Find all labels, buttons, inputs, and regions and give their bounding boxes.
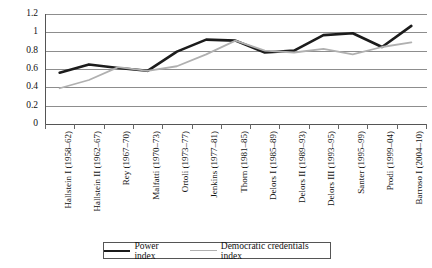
y-axis-tick-label: 0 bbox=[0, 119, 38, 129]
x-axis-tick bbox=[162, 124, 163, 129]
line-chart: 00.20.40.60.811.2 Hallstein I (1958–62)H… bbox=[0, 0, 432, 268]
x-axis-category-label: Ortoli (1973–77) bbox=[181, 131, 190, 241]
x-axis-tick bbox=[426, 124, 427, 129]
x-axis-tick bbox=[397, 124, 398, 129]
x-axis-tick bbox=[104, 124, 105, 129]
series-line-democratic-credentials-index bbox=[60, 41, 412, 89]
x-axis-category-label: Barroso I (2004–10) bbox=[415, 131, 424, 241]
x-axis-category-label: Delors III (1993–95) bbox=[327, 131, 336, 241]
x-axis-category-label: Santer (1995–99) bbox=[357, 131, 366, 241]
x-axis-tick bbox=[74, 124, 75, 129]
x-axis-category-label: Malfatti (1970–73) bbox=[152, 131, 161, 241]
x-axis-tick bbox=[192, 124, 193, 129]
series-line-power-index bbox=[60, 26, 412, 73]
legend-label-power-index: Power index bbox=[134, 241, 181, 261]
x-axis-tick bbox=[367, 124, 368, 129]
x-axis-tick bbox=[309, 124, 310, 129]
x-axis-category-label: Prodi (1999–04) bbox=[386, 131, 395, 241]
legend-label-democratic-credentials-index: Democratic credentials index bbox=[221, 241, 330, 261]
y-axis-tick-label: 0.8 bbox=[0, 46, 38, 56]
chart-legend: Power index Democratic credentials index bbox=[103, 242, 331, 259]
y-axis-tick-label: 0.2 bbox=[0, 101, 38, 111]
democratic-line-swatch bbox=[190, 250, 216, 251]
x-axis-tick bbox=[338, 124, 339, 129]
x-axis-category-label: Delors II (1989–93) bbox=[298, 131, 307, 241]
x-axis-category-label: Hallstein I (1958–62) bbox=[64, 131, 73, 241]
x-axis-tick bbox=[279, 124, 280, 129]
x-axis-tick bbox=[221, 124, 222, 129]
x-axis-tick bbox=[45, 124, 46, 129]
series-lines bbox=[45, 14, 426, 124]
power-line-swatch bbox=[104, 250, 130, 252]
y-axis-tick-label: 0.4 bbox=[0, 82, 38, 92]
y-axis-tick-label: 1.2 bbox=[0, 9, 38, 19]
x-axis-tick bbox=[250, 124, 251, 129]
y-axis-labels: 00.20.40.60.811.2 bbox=[0, 0, 41, 268]
x-axis-category-label: Hallstein II (1962–67) bbox=[93, 131, 102, 241]
y-axis-tick-label: 1 bbox=[0, 27, 38, 37]
x-axis-category-label: Delors I (1985–89) bbox=[269, 131, 278, 241]
x-axis-tick bbox=[133, 124, 134, 129]
y-axis-tick-label: 0.6 bbox=[0, 64, 38, 74]
legend-entry-democratic-credentials-index: Democratic credentials index bbox=[190, 241, 330, 261]
legend-entry-power-index: Power index bbox=[104, 241, 181, 261]
x-axis-category-label: Jenkins (1977–81) bbox=[210, 131, 219, 241]
x-axis-category-label: Rey (1967–70) bbox=[122, 131, 131, 241]
x-axis-category-label: Thorn (1981–85) bbox=[240, 131, 249, 241]
x-axis-line bbox=[45, 124, 426, 125]
